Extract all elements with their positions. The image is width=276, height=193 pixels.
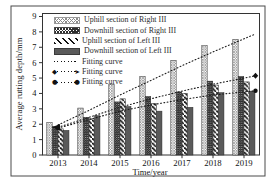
x-tick-label: 2019 (235, 158, 252, 168)
dotted-line-swatch (54, 58, 78, 65)
bar (207, 81, 212, 155)
bar (52, 127, 57, 155)
y-tick-label: 5 (32, 74, 36, 83)
bar (238, 77, 243, 155)
legend-item-uphill-left: Uphill section of Left III (54, 36, 260, 46)
bar (47, 123, 52, 155)
bar (188, 107, 193, 155)
bar (95, 116, 100, 155)
x-axis-label: Time/year (132, 167, 167, 177)
figure: 01234567892013201420152016201720182019 A… (0, 0, 276, 193)
legend-label: Fitting curve (82, 68, 123, 76)
legend-label: Fitting curve (82, 78, 123, 86)
bar (114, 102, 119, 155)
bar (58, 129, 63, 155)
legend-item-fitting-1: Fitting curve (54, 56, 260, 66)
dotted-line-circle-swatch (54, 79, 78, 86)
bar (219, 93, 224, 155)
legend-label: Uphill section of Right III (84, 16, 166, 24)
diagonal-stripes-swatch (54, 38, 78, 44)
legend: Uphill section of Right III Downhill sec… (54, 15, 260, 87)
y-tick-label: 9 (32, 12, 36, 21)
legend-label: Downhill section of Left III (84, 47, 172, 55)
x-tick-label: 2018 (204, 158, 222, 168)
bar (140, 77, 145, 155)
legend-item-fitting-3: Fitting curve (54, 77, 260, 87)
crosshatch-dark-swatch (54, 27, 80, 34)
y-tick-label: 8 (32, 28, 36, 37)
legend-item-fitting-2: Fitting curve (54, 67, 260, 77)
bar (244, 82, 249, 155)
legend-item-downhill-right: Downhill section of Right III (54, 25, 260, 35)
bar (109, 84, 114, 155)
bar (126, 107, 131, 155)
y-tick-label: 2 (32, 120, 36, 129)
bar (151, 103, 156, 155)
y-tick-label: 1 (32, 136, 36, 145)
x-tick-label: 2014 (80, 158, 98, 168)
diamond-marker-icon (52, 68, 57, 75)
y-axis-label: Average rutting depth/mm (14, 38, 24, 131)
bar (182, 93, 187, 155)
solid-bar-swatch (54, 48, 80, 55)
legend-item-uphill-right: Uphill section of Right III (54, 15, 260, 25)
bar (213, 85, 218, 155)
y-tick-label: 6 (32, 59, 36, 68)
circle-marker-icon (56, 126, 60, 130)
x-tick-label: 2017 (173, 158, 191, 168)
circle-marker-icon (74, 79, 80, 86)
legend-label: Downhill section of Right III (84, 27, 176, 35)
circle-marker-icon (52, 79, 58, 86)
crosshatch-light-swatch (54, 17, 80, 24)
legend-label: Fitting curve (82, 58, 123, 66)
bar (250, 91, 255, 155)
circle-marker-icon (253, 89, 257, 93)
dotted-line-diamond-swatch (54, 68, 78, 75)
bar (176, 92, 181, 155)
x-tick-label: 2015 (111, 158, 128, 168)
bar (64, 130, 69, 155)
y-tick-label: 0 (32, 151, 36, 160)
bar (89, 119, 94, 155)
legend-item-downhill-left: Downhill section of Left III (54, 46, 260, 56)
bar (157, 111, 162, 155)
y-tick-label: 7 (32, 43, 36, 52)
x-tick-label: 2013 (49, 158, 66, 168)
bar (83, 117, 88, 155)
arrow-marker-icon (75, 68, 80, 75)
legend-label: Uphill section of Left III (82, 37, 160, 45)
y-tick-label: 3 (32, 105, 36, 114)
